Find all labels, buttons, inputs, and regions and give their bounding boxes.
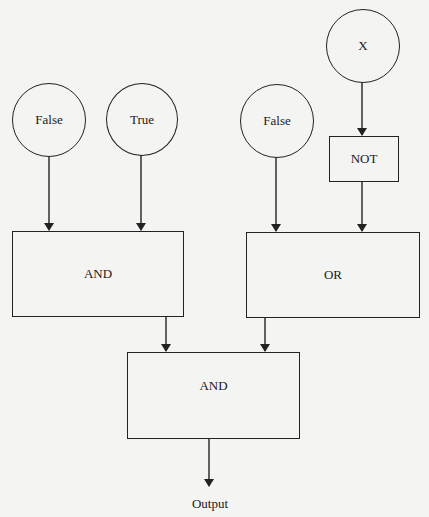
- input-node-false-1: False: [12, 83, 86, 157]
- gate-label: AND: [84, 266, 112, 282]
- input-node-x: X: [326, 9, 400, 83]
- input-label: False: [263, 113, 290, 129]
- gate-or: OR: [246, 232, 420, 318]
- input-label: X: [358, 38, 367, 54]
- gate-label: NOT: [351, 151, 378, 167]
- output-label: Output: [192, 496, 228, 512]
- gate-not: NOT: [329, 136, 399, 182]
- input-label: False: [35, 112, 62, 128]
- gate-label: OR: [324, 267, 342, 283]
- input-node-false-2: False: [240, 84, 314, 158]
- input-label: True: [130, 112, 154, 128]
- gate-and-left: AND: [12, 231, 184, 317]
- gate-label: AND: [199, 378, 227, 394]
- input-node-true: True: [106, 83, 178, 156]
- gate-and-bottom: AND: [127, 352, 300, 439]
